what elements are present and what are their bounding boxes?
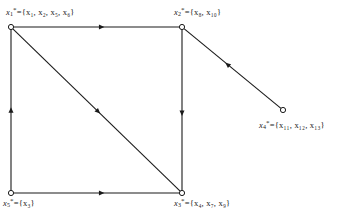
edge-x1-to-x2-arrowhead — [99, 25, 104, 30]
edge-x2-to-x3 — [180, 30, 185, 191]
graph-canvas — [0, 0, 353, 224]
edge-x5-to-x3 — [14, 191, 180, 196]
node-label-x4-set: {x₁₁, x₁₂, x₁₃} — [275, 120, 325, 130]
node-label-x4: x4*={x₁₁, x₁₂, x₁₃} — [259, 120, 325, 130]
node-label-x5: x5*={x₃} — [3, 198, 35, 208]
node-x3 — [179, 190, 184, 195]
edges-group — [9, 25, 281, 196]
figure-container: x1*={x₁, x₂, x₅, x₆} x2*={x₈, x₁₀} x3*={… — [0, 0, 353, 224]
edge-x5-to-x1-arrowhead — [9, 107, 14, 112]
edge-x5-to-x1 — [9, 30, 14, 191]
edge-x5-to-x3-arrowhead — [99, 191, 104, 196]
edge-x2-to-x3-arrowhead — [180, 111, 185, 116]
node-x2 — [179, 24, 184, 29]
node-x1 — [8, 24, 13, 29]
node-x4 — [280, 107, 285, 112]
node-x5 — [8, 190, 13, 195]
node-label-x2: x2*={x₈, x₁₀} — [174, 7, 221, 17]
edge-x1-to-x3 — [13, 29, 180, 191]
node-label-x5-set: {x₃} — [19, 198, 35, 208]
node-label-x3: x3*={x₄, x₇, x₉} — [174, 198, 230, 208]
node-label-x3-set: {x₄, x₇, x₉} — [190, 198, 231, 208]
edge-x4-to-x2-line — [184, 29, 281, 109]
node-label-x1-set: {x₁, x₂, x₅, x₆} — [22, 7, 75, 17]
edge-x4-to-x2 — [184, 29, 281, 109]
node-label-x2-set: {x₈, x₁₀} — [190, 7, 222, 17]
nodes-group — [8, 24, 285, 195]
edge-x1-to-x2 — [14, 25, 180, 30]
node-label-x1: x1*={x₁, x₂, x₅, x₆} — [6, 7, 75, 17]
